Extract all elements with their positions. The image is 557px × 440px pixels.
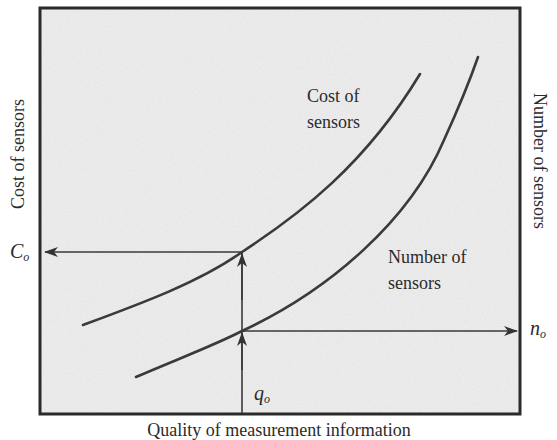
cost-value-subscript: o xyxy=(23,250,29,264)
number-curve-label-line2: sensors xyxy=(388,270,466,296)
quality-value-subscript: o xyxy=(264,392,270,406)
cost-curve-label-line1: Cost of xyxy=(307,83,360,109)
number-value-subscript: o xyxy=(540,327,546,341)
number-curve-label-line1: Number of xyxy=(388,244,466,270)
bottom-axis-label: Quality of measurement information xyxy=(147,421,410,439)
cost-value-marker: Co xyxy=(10,241,29,263)
cost-curve-label: Cost of sensors xyxy=(307,83,360,135)
number-value-marker: no xyxy=(530,318,546,340)
right-axis-label: Number of sensors xyxy=(529,93,550,229)
cost-curve-label-line2: sensors xyxy=(307,109,360,135)
number-curve-label: Number of sensors xyxy=(388,244,466,296)
number-value-symbol: n xyxy=(530,317,540,339)
quality-value-marker: qo xyxy=(254,383,270,405)
cost-value-symbol: C xyxy=(10,240,23,262)
quality-value-symbol: q xyxy=(254,382,264,404)
left-axis-label: Cost of sensors xyxy=(8,99,29,209)
